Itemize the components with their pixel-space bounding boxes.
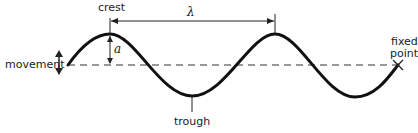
wavelength-label: λ: [187, 5, 195, 19]
arrowhead-up-icon: [107, 36, 113, 42]
crest-label: crest: [98, 2, 125, 14]
amplitude-label: a: [114, 42, 121, 56]
arrowhead-right-icon: [267, 18, 274, 24]
trough-label: trough: [174, 116, 210, 128]
arrowhead-left-icon: [111, 18, 118, 24]
movement-label: movement: [5, 59, 65, 71]
fixed-label-line2: point: [390, 48, 418, 60]
movement-up-icon: [55, 50, 63, 57]
arrowhead-down-icon: [107, 58, 113, 64]
